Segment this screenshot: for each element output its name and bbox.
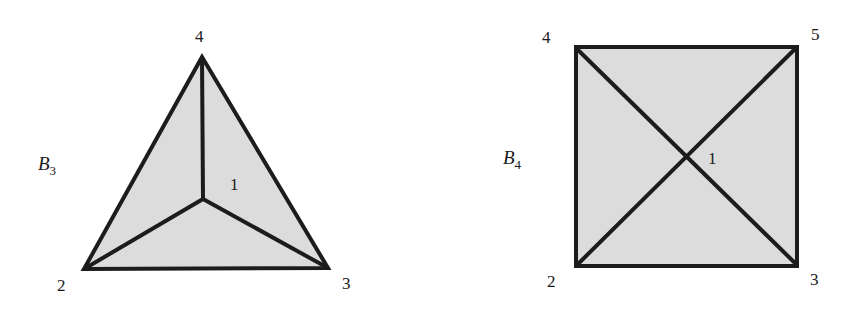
figure-b4: 4 5 2 3 1 B4: [503, 25, 820, 291]
triangle-face: [84, 57, 328, 269]
vertex-label-2: 2: [57, 276, 66, 295]
vertex-label-4: 4: [195, 27, 204, 46]
vertex-label-3: 3: [342, 274, 351, 293]
figure-name-b4: B4: [503, 147, 522, 172]
edge-1-4: [202, 57, 203, 199]
figure-name-b3: B3: [38, 153, 56, 178]
vertex-label-4: 4: [542, 28, 551, 47]
vertex-label-2: 2: [547, 272, 556, 291]
figure-b3: 4 2 3 1 B3: [38, 27, 351, 295]
vertex-label-1: 1: [230, 175, 239, 194]
vertex-label-3: 3: [810, 270, 819, 289]
vertex-label-5: 5: [811, 25, 820, 44]
vertex-label-1: 1: [708, 149, 717, 168]
diagram-canvas: 4 2 3 1 B3 4 5 2 3 1 B4: [0, 0, 855, 315]
